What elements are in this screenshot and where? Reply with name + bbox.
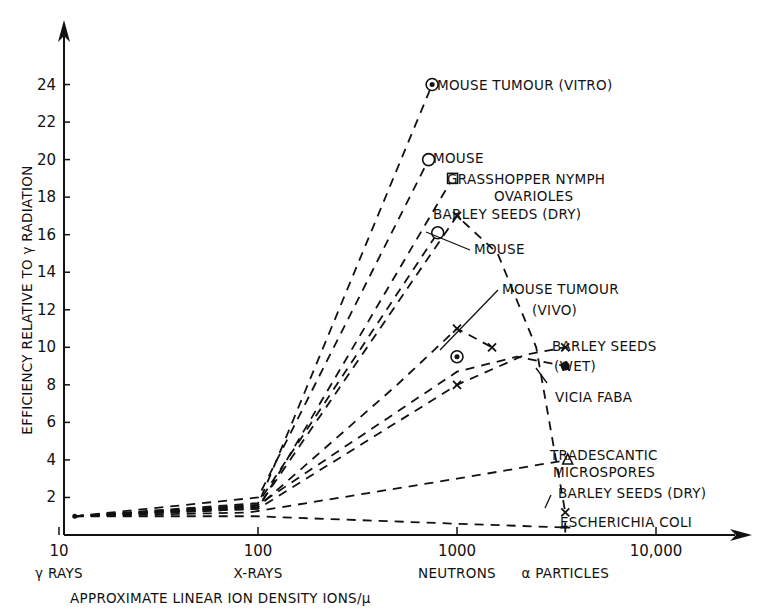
x-tick-sublabel: γ RAYS [35, 565, 83, 581]
x-marker [488, 343, 496, 351]
gamma-origin-dot [72, 514, 77, 519]
annotation-label: OVARIOLES [494, 188, 573, 204]
annotation-label: ESCHERICHIA COLI [560, 514, 692, 530]
annotation-label: (WET) [554, 358, 596, 374]
y-tick-label: 24 [37, 76, 56, 94]
annotation-label: MOUSE TUMOUR [502, 281, 619, 297]
series-curve [75, 160, 429, 517]
y-tick-label: 22 [37, 113, 56, 131]
double-circle-marker-center [430, 82, 435, 87]
series-curve [75, 516, 566, 527]
y-axis-title: EFFICIENCY RELATIVE TO γ RADIATION [19, 165, 35, 434]
chart: 2468101214161820222410γ RAYS100X-RAYS100… [0, 0, 771, 614]
x-axis-title: APPROXIMATE LINEAR ION DENSITY IONS/μ [70, 590, 371, 606]
y-tick-label: 4 [46, 451, 56, 469]
y-tick-label: 18 [37, 188, 56, 206]
series-curve [75, 85, 432, 517]
y-tick-label: 6 [46, 413, 56, 431]
y-tick-label: 8 [46, 376, 56, 394]
annotation-label: MOUSE [474, 241, 525, 257]
pointer-arrow [545, 495, 551, 508]
annotation-label: VICIA FABA [555, 389, 633, 405]
annotation-label: TRADESCANTIC [549, 447, 658, 463]
x-tick-label: 10,000 [630, 542, 683, 560]
series-curve [75, 347, 566, 516]
annotation-label: MOUSE TUMOUR (VITRO) [437, 77, 613, 93]
x-marker [453, 381, 461, 389]
y-tick-label: 16 [37, 226, 56, 244]
series-curve [75, 216, 566, 516]
annotation-label: BARLEY SEEDS (DRY) [558, 485, 706, 501]
x-marker [453, 325, 461, 333]
x-tick-label: 100 [244, 542, 273, 560]
annotation-label: MICROSPORES [553, 464, 655, 480]
x-tick-sublabel: NEUTRONS [418, 565, 496, 581]
x-tick-label: 1000 [438, 542, 476, 560]
series-curve [75, 357, 566, 517]
y-tick-label: 20 [37, 151, 56, 169]
y-tick-label: 10 [37, 338, 56, 356]
annotation-label: MOUSE [433, 150, 484, 166]
series-curve [75, 178, 453, 516]
annotation-label: (VIVO) [532, 302, 577, 318]
double-circle-marker-center [455, 354, 460, 359]
y-tick-label: 2 [46, 488, 56, 506]
annotation-label: GRASSHOPPER NYMPH [447, 171, 605, 187]
annotation-label: BARLEY SEEDS (DRY) [433, 206, 581, 222]
alpha-particles-label: α PARTICLES [521, 565, 609, 581]
series-curve [75, 233, 438, 516]
y-tick-label: 12 [37, 301, 56, 319]
x-tick-label: 10 [49, 542, 68, 560]
y-tick-label: 14 [37, 263, 56, 281]
pointer-arrow [440, 290, 498, 350]
annotation-label: BARLEY SEEDS [552, 338, 657, 354]
x-tick-sublabel: X-RAYS [233, 565, 282, 581]
